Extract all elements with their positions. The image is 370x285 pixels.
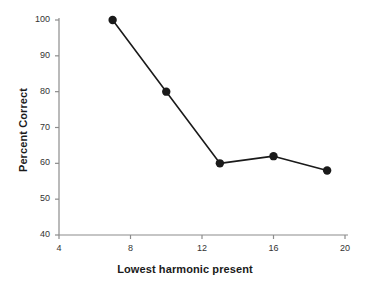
data-point-marker <box>162 87 170 95</box>
data-series <box>108 16 331 175</box>
chart-figure: Percent Correct Lowest harmonic present … <box>0 0 370 285</box>
data-point-marker <box>216 159 224 167</box>
series-line <box>113 20 328 171</box>
tick-marks <box>55 20 345 239</box>
plot-area <box>0 0 370 285</box>
data-point-marker <box>323 166 331 174</box>
data-point-marker <box>269 152 277 160</box>
axes <box>59 18 348 235</box>
data-point-marker <box>108 16 116 24</box>
